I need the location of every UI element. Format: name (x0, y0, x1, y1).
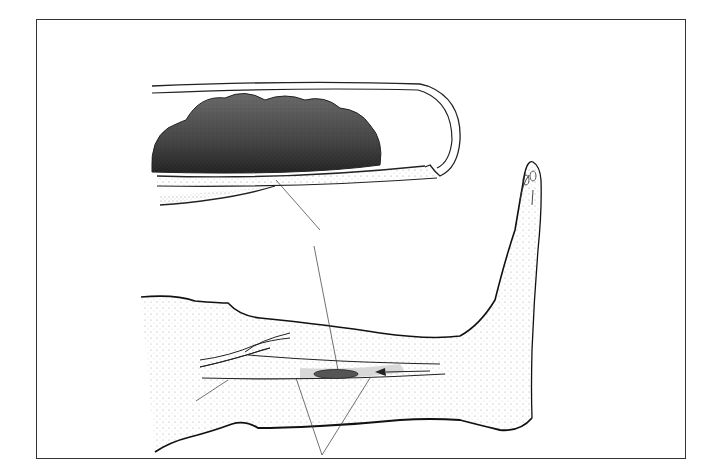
thrombophlebitis-illustration (0, 0, 715, 468)
blood-clot-in-leg (314, 370, 358, 379)
leg-illustration (141, 162, 541, 452)
magnified-vein (152, 82, 460, 205)
